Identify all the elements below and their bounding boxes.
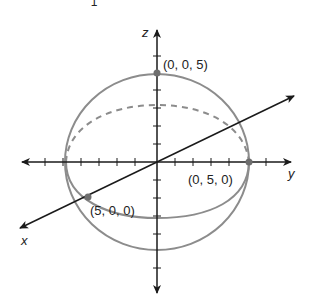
sphere-diagram: 1: [0, 0, 311, 303]
axis-label-z: z: [141, 25, 149, 40]
axis-label-y: y: [287, 166, 296, 181]
axis-label-x: x: [20, 233, 28, 248]
point-y: [246, 159, 253, 166]
point-label-x: (5, 0, 0): [90, 203, 135, 218]
point-label-z: (0, 0, 5): [163, 57, 208, 72]
title-fragment: 1: [91, 0, 98, 9]
point-label-y: (0, 5, 0): [188, 172, 233, 187]
x-axis-negative: [157, 96, 294, 162]
point-x: [85, 194, 92, 201]
axes: [20, 30, 294, 293]
point-z: [154, 70, 161, 77]
